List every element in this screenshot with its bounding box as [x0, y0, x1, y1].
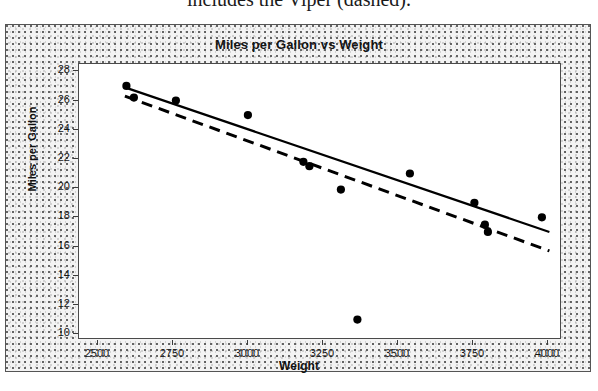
- x-tick-mark: [172, 340, 173, 345]
- x-tick-mark: [322, 340, 323, 345]
- data-point: [337, 185, 345, 193]
- data-point: [484, 228, 492, 236]
- chart-figure: Miles per Gallon vs Weight Miles per Gal…: [5, 24, 591, 372]
- x-tick-mark: [397, 340, 398, 345]
- x-tick-label: 3250: [297, 347, 347, 359]
- data-point: [122, 82, 130, 90]
- x-tick-label: 3000: [222, 347, 272, 359]
- y-axis-label: Miles per Gallon: [26, 89, 38, 209]
- x-tick-mark: [97, 340, 98, 345]
- solid-fit-line: [125, 87, 550, 232]
- data-point: [172, 96, 180, 104]
- data-point: [538, 213, 546, 221]
- y-tick-label: 26: [42, 93, 70, 105]
- y-tick-label: 20: [42, 180, 70, 192]
- data-point: [353, 315, 361, 323]
- y-tick-label: 16: [42, 239, 70, 251]
- x-tick-label: 4000: [522, 347, 572, 359]
- data-point: [470, 199, 478, 207]
- x-tick-label: 2500: [72, 347, 122, 359]
- caption-clip: includes the Viper (dashed).: [0, 0, 598, 22]
- plot-area: [78, 63, 561, 339]
- x-tick-label: 3750: [447, 347, 497, 359]
- plot-svg: [79, 64, 562, 340]
- data-point: [406, 169, 414, 177]
- data-point: [481, 221, 489, 229]
- x-axis-label: Weight: [6, 359, 592, 373]
- y-tick-label: 12: [42, 297, 70, 309]
- y-tick-label: 28: [42, 63, 70, 75]
- y-tick-label: 24: [42, 122, 70, 134]
- data-point: [130, 93, 138, 101]
- x-tick-mark: [247, 340, 248, 345]
- data-point: [244, 111, 252, 119]
- caption-text: includes the Viper (dashed).: [0, 0, 598, 10]
- y-tick-label: 22: [42, 151, 70, 163]
- y-tick-label: 18: [42, 209, 70, 221]
- x-tick-label: 2750: [147, 347, 197, 359]
- y-tick-label: 10: [42, 326, 70, 338]
- data-point: [305, 162, 313, 170]
- x-tick-mark: [547, 340, 548, 345]
- x-tick-mark: [472, 340, 473, 345]
- chart-title: Miles per Gallon vs Weight: [6, 37, 592, 52]
- x-tick-label: 3500: [372, 347, 422, 359]
- y-tick-label: 14: [42, 268, 70, 280]
